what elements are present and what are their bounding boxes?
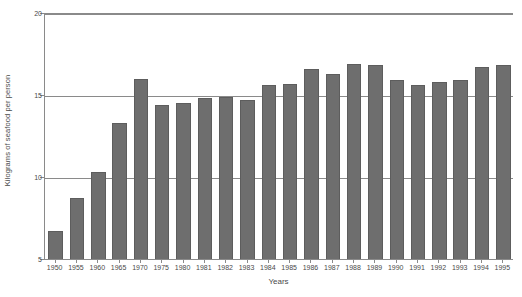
bar-1955 [70,198,84,260]
bar-1988 [347,64,361,260]
x-tick-mark-1989 [374,259,375,263]
bar-1984 [262,85,276,260]
x-tick-label-1960: 1960 [87,264,108,271]
seafood-per-person-bar-chart: Kilograms of seafood per person 5101520 … [0,0,522,297]
bar-1987 [326,74,340,260]
x-tick-mark-1955 [76,259,77,263]
bar-1982 [219,97,233,260]
x-tick-label-1989: 1989 [364,264,385,271]
x-tick-label-1975: 1975 [151,264,172,271]
x-tick-label-1984: 1984 [257,264,278,271]
x-tick-mark-1982 [225,259,226,263]
x-tick-label-1993: 1993 [449,264,470,271]
x-tick-mark-1986 [310,259,311,263]
bar-1960 [91,172,105,260]
x-tick-mark-1984 [268,259,269,263]
x-tick-label-1983: 1983 [236,264,257,271]
x-tick-mark-1988 [353,259,354,263]
x-axis-title: Years [44,277,513,286]
x-tick-label-1990: 1990 [385,264,406,271]
x-tick-mark-1965 [119,259,120,263]
bar-1950 [48,231,62,260]
x-tick-mark-1987 [332,259,333,263]
x-tick-mark-1970 [140,259,141,263]
bar-1985 [283,84,297,260]
x-tick-label-1965: 1965 [108,264,129,271]
x-tick-label-1950: 1950 [44,264,65,271]
plot-area [44,13,513,259]
x-tick-mark-1985 [289,259,290,263]
x-tick-label-1985: 1985 [279,264,300,271]
x-tick-mark-1995 [502,259,503,263]
bar-1994 [475,67,489,260]
y-tick-label-10: 10 [18,174,42,181]
x-tick-mark-1980 [183,259,184,263]
x-tick-mark-1993 [460,259,461,263]
x-tick-label-1988: 1988 [342,264,363,271]
x-tick-mark-1981 [204,259,205,263]
x-tick-label-1981: 1981 [193,264,214,271]
x-axis-ticks: 1950195519601965197019751980198119821983… [44,259,513,279]
y-axis-ticks: 5101520 [12,0,42,297]
x-tick-mark-1992 [438,259,439,263]
bar-1995 [496,65,510,260]
bar-1965 [112,123,126,260]
x-tick-mark-1983 [247,259,248,263]
x-tick-label-1991: 1991 [406,264,427,271]
x-tick-mark-1990 [396,259,397,263]
x-tick-mark-1975 [161,259,162,263]
x-tick-label-1982: 1982 [215,264,236,271]
bar-1970 [134,79,148,260]
x-tick-label-1994: 1994 [470,264,491,271]
x-tick-label-1987: 1987 [321,264,342,271]
x-tick-mark-1950 [55,259,56,263]
x-tick-label-1995: 1995 [492,264,513,271]
bar-1975 [155,105,169,260]
bar-1980 [176,103,190,260]
bar-1991 [411,85,425,260]
bar-1981 [198,98,212,260]
bars-layer [45,14,513,259]
bar-1993 [453,80,467,260]
x-tick-label-1986: 1986 [300,264,321,271]
x-tick-mark-1991 [417,259,418,263]
y-tick-label-20: 20 [18,10,42,17]
x-tick-label-1980: 1980 [172,264,193,271]
bar-1983 [240,100,254,260]
x-tick-mark-1994 [481,259,482,263]
x-tick-label-1955: 1955 [65,264,86,271]
bar-1986 [304,69,318,260]
x-tick-label-1970: 1970 [129,264,150,271]
y-tick-label-5: 5 [18,256,42,263]
bar-1992 [432,82,446,260]
x-tick-label-1992: 1992 [428,264,449,271]
x-tick-mark-1960 [97,259,98,263]
bar-1990 [390,80,404,260]
y-tick-label-15: 15 [18,92,42,99]
bar-1989 [368,65,382,260]
